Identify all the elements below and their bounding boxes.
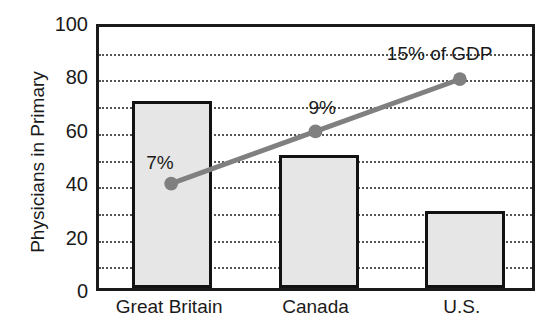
x-axis-tick-label: U.S. xyxy=(443,296,480,318)
y-axis-tick-label: 60 xyxy=(40,121,88,141)
point-annotation: 9% xyxy=(309,98,336,117)
point-annotation: 15% of GDP xyxy=(387,44,493,63)
y-axis-tick-labels: 020406080100 xyxy=(32,0,88,334)
y-axis-tick-label: 0 xyxy=(40,281,88,301)
x-axis-tick-labels: Great BritainCanadaU.S. xyxy=(96,296,535,330)
line-marker xyxy=(164,177,178,191)
y-axis-tick-label: 20 xyxy=(40,228,88,248)
plot-area: 7%9%15% of GDP xyxy=(96,24,535,291)
y-axis-tick-label: 100 xyxy=(40,14,88,34)
y-axis-tick-label: 40 xyxy=(40,174,88,194)
x-axis-tick-label: Canada xyxy=(282,296,349,318)
x-axis-tick-label: Great Britain xyxy=(116,296,223,318)
point-annotation: 7% xyxy=(146,153,173,172)
plot-inner: 7%9%15% of GDP xyxy=(99,27,532,288)
y-axis-tick-label: 80 xyxy=(40,67,88,87)
line-marker xyxy=(453,72,467,86)
line-marker xyxy=(309,125,323,139)
chart-container: Physicians in Primary 020406080100 7%9%1… xyxy=(0,0,555,334)
